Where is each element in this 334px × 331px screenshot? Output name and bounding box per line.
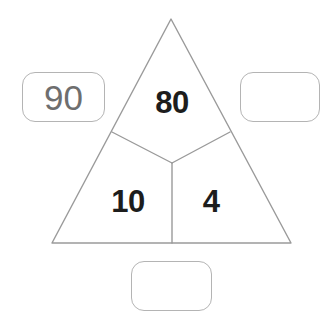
- triangle-sector-bottom-left-value: 10: [111, 186, 144, 217]
- answer-box-left-value: 90: [44, 80, 83, 115]
- answer-box-bottom[interactable]: [131, 261, 212, 311]
- triangle-sector-bottom-right-value: 4: [203, 186, 220, 217]
- triangle-sector-top-value: 80: [155, 87, 188, 118]
- worksheet-canvas: 80 10 4 90: [0, 0, 334, 331]
- answer-box-left[interactable]: 90: [22, 72, 105, 122]
- answer-box-right[interactable]: [240, 72, 320, 122]
